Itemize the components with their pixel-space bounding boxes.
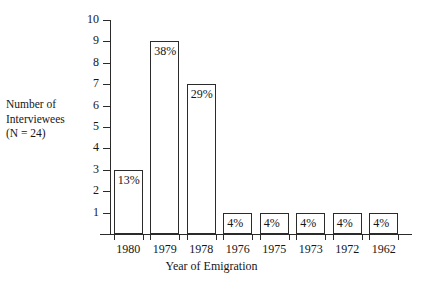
bar-value-label: 4% <box>373 216 389 230</box>
y-axis-tick-label: 6 <box>93 98 99 113</box>
x-axis-tick <box>362 234 363 240</box>
bar: 13% <box>114 170 143 234</box>
y-axis-tick: 3 <box>103 170 110 171</box>
bar: 4% <box>333 213 362 234</box>
bar-value-label: 4% <box>337 216 353 230</box>
plot-area: 10987654321 13%38%29%4%4%4%4%4% 19801979… <box>110 20 402 234</box>
bar: 4% <box>369 213 398 234</box>
bar: 4% <box>223 213 252 234</box>
x-axis-tick-label: 1975 <box>256 242 293 257</box>
y-axis-tick-label: 8 <box>93 55 99 70</box>
y-axis-tick-label: 10 <box>87 12 99 27</box>
x-axis-tick <box>150 234 151 240</box>
bar: 38% <box>150 41 179 234</box>
y-axis-tick-label: 7 <box>93 76 99 91</box>
y-axis-title-line-3: (N = 24) <box>6 126 90 141</box>
x-axis-tick-label: 1978 <box>183 242 220 257</box>
x-axis-tick <box>179 234 180 240</box>
x-axis-tick <box>333 234 334 240</box>
y-axis-tick-label: 9 <box>93 33 99 48</box>
chart-figure: Number of Interviewees (N = 24) 10987654… <box>0 0 423 286</box>
y-axis-title-line-1: Number of <box>6 97 90 112</box>
y-axis-title-line-2: Interviewees <box>6 112 90 127</box>
y-axis-tick-label: 3 <box>93 162 99 177</box>
y-axis-tick: 7 <box>103 84 110 85</box>
y-axis-tick: 6 <box>103 106 110 107</box>
bar: 4% <box>260 213 289 234</box>
y-axis-tick: 2 <box>103 191 110 192</box>
x-axis-title: Year of Emigration <box>0 259 423 274</box>
y-axis-line <box>110 20 111 234</box>
y-axis-tick-label: 4 <box>93 140 99 155</box>
bar: 4% <box>296 213 325 234</box>
y-axis-title: Number of Interviewees (N = 24) <box>6 97 90 141</box>
bar-value-label: 13% <box>118 173 140 187</box>
bar-value-label: 4% <box>227 216 243 230</box>
x-axis-tick-label: 1979 <box>147 242 184 257</box>
bar-value-label: 4% <box>300 216 316 230</box>
x-axis-tick <box>325 234 326 240</box>
x-axis-tick-label: 1976 <box>220 242 257 257</box>
x-axis-tick <box>216 234 217 240</box>
y-axis-tick: 9 <box>103 41 110 42</box>
x-axis-tick-label: 1980 <box>110 242 147 257</box>
y-axis-tick: 4 <box>103 148 110 149</box>
x-axis-tick <box>398 234 399 240</box>
x-axis-tick <box>252 234 253 240</box>
y-axis-tick-label: 2 <box>93 183 99 198</box>
bar-value-label: 4% <box>264 216 280 230</box>
y-axis-tick: 10 <box>103 20 110 21</box>
y-axis-tick: 5 <box>103 127 110 128</box>
x-axis-tick <box>187 234 188 240</box>
x-axis-tick-label: 1972 <box>329 242 366 257</box>
x-axis-tick <box>223 234 224 240</box>
y-axis-tick: 8 <box>103 63 110 64</box>
bar-value-label: 29% <box>191 87 213 101</box>
bar-value-label: 38% <box>154 44 176 58</box>
x-axis-line <box>100 234 412 235</box>
y-axis-tick-label: 1 <box>93 205 99 220</box>
x-axis-tick <box>260 234 261 240</box>
x-axis-tick-label: 1962 <box>366 242 403 257</box>
x-axis-tick <box>296 234 297 240</box>
x-axis-tick <box>114 234 115 240</box>
bar: 29% <box>187 84 216 234</box>
x-axis-tick <box>143 234 144 240</box>
y-axis-tick-label: 5 <box>93 119 99 134</box>
x-axis-tick <box>369 234 370 240</box>
x-axis-tick <box>289 234 290 240</box>
y-axis-tick: 1 <box>103 213 110 214</box>
x-axis-tick-label: 1973 <box>293 242 330 257</box>
